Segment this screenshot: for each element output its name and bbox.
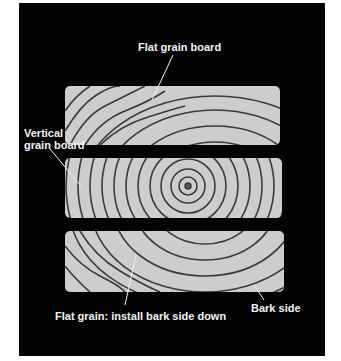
grain-rings-illustration	[65, 231, 284, 292]
vertical-grain-board	[65, 158, 282, 218]
label-flat-grain-board: Flat grain board	[138, 41, 221, 53]
label-install-bark-side-down: Flat grain: install bark side down	[55, 310, 226, 322]
label-vertical-grain-line2: grain board	[24, 139, 85, 151]
label-bark-side: Bark side	[251, 302, 301, 314]
grain-rings-illustration	[65, 158, 282, 218]
flat-grain-board-bottom	[65, 231, 284, 292]
flat-grain-board-top	[65, 86, 280, 145]
grain-rings-illustration	[65, 86, 280, 145]
label-vertical-grain-line1: Vertical	[24, 127, 63, 139]
